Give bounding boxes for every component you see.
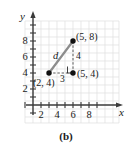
point-label-2-4: (2, 4) (33, 77, 55, 89)
x-tick-label-6: 6 (70, 109, 75, 120)
figure-caption: (b) (59, 130, 73, 143)
x-axis-label: x (118, 106, 124, 118)
y-axis-label: y (19, 10, 25, 22)
leg-label-4: 4 (76, 51, 81, 61)
x-tick-label-8: 8 (86, 109, 91, 120)
y-tick-label-2: 2 (22, 83, 27, 94)
data-point-5-4 (70, 70, 75, 75)
data-point-5-8 (70, 38, 75, 43)
leg-label-3: 3 (60, 74, 65, 84)
y-axis-arrowhead (30, 11, 35, 18)
distance-label-d: d (53, 50, 59, 61)
data-point-2-4 (46, 70, 51, 75)
x-tick-label-4: 4 (54, 109, 60, 120)
y-tick-label-4: 4 (22, 67, 28, 78)
point-label-5-8: (5, 8) (76, 31, 98, 43)
y-tick-label-8: 8 (22, 35, 27, 46)
distance-formula-figure: 2 4 6 8 2 4 6 8 y x (5, 8) (5, 4) (2, 4)… (0, 0, 132, 148)
axes (26, 11, 123, 115)
y-tick-label-6: 6 (22, 51, 27, 62)
x-tick-label-2: 2 (38, 109, 43, 120)
coordinate-plane: 2 4 6 8 2 4 6 8 y x (5, 8) (5, 4) (2, 4)… (0, 0, 132, 148)
point-label-5-4: (5, 4) (77, 68, 99, 80)
